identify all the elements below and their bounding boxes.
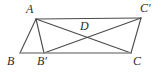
vertex-label-B: B bbox=[7, 55, 14, 67]
segment-Bprime-Cprime bbox=[44, 18, 141, 53]
geometry-figure: A B B′ C C′ D bbox=[0, 0, 165, 73]
segment-A-B bbox=[20, 19, 36, 53]
vertex-label-C-prime: C′ bbox=[140, 2, 151, 14]
vertex-label-D: D bbox=[80, 20, 89, 32]
vertex-label-B-prime: B′ bbox=[37, 55, 47, 67]
vertex-label-A: A bbox=[26, 3, 33, 15]
vertex-label-C: C bbox=[133, 55, 141, 67]
segment-A-Bprime bbox=[36, 19, 44, 53]
segment-C-Cprime bbox=[131, 18, 141, 53]
